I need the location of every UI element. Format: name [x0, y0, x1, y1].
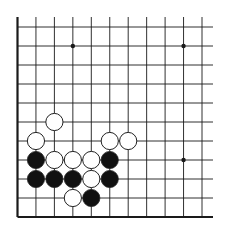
- go-board: [0, 0, 230, 233]
- white-stone: [83, 170, 100, 187]
- white-stone: [64, 189, 81, 206]
- white-stone: [120, 132, 137, 149]
- star-point-icon: [181, 44, 185, 48]
- star-point-icon: [181, 158, 185, 162]
- white-stone: [46, 151, 63, 168]
- black-stone: [46, 170, 63, 187]
- white-stone: [64, 151, 81, 168]
- black-stone: [101, 170, 118, 187]
- white-stone: [83, 151, 100, 168]
- black-stone: [27, 151, 44, 168]
- white-stone: [46, 113, 63, 130]
- white-stone: [101, 132, 118, 149]
- star-point-icon: [71, 44, 75, 48]
- white-stone: [27, 132, 44, 149]
- black-stone: [83, 189, 100, 206]
- black-stone: [64, 170, 81, 187]
- black-stone: [27, 170, 44, 187]
- black-stone: [101, 151, 118, 168]
- go-board-canvas: [0, 0, 230, 233]
